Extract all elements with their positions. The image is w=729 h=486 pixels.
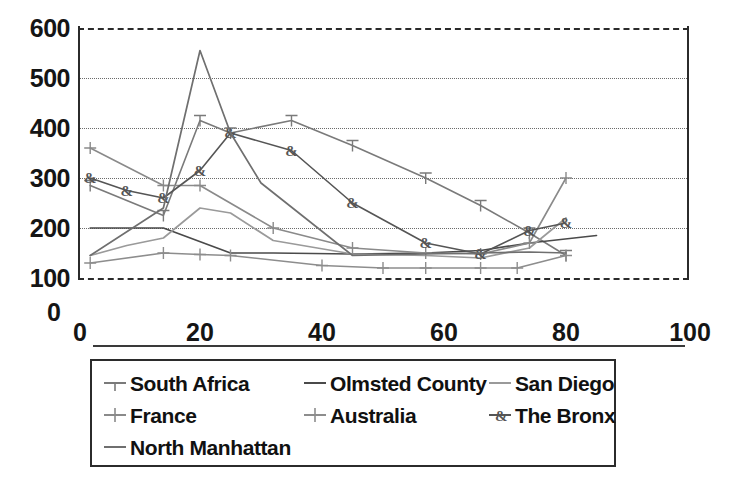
series-australia — [84, 247, 572, 274]
legend-item-label: North Manhattan — [130, 437, 291, 458]
legend-item-olmsted-county[interactable]: Olmsted County — [302, 373, 487, 394]
series-marker — [560, 250, 572, 262]
svg-text:&: & — [523, 223, 536, 239]
line-marker-icon — [102, 437, 128, 457]
legend-item-the-bronx[interactable]: &The Bronx — [487, 405, 627, 426]
series-marker — [420, 262, 432, 274]
tee-marker-icon — [102, 373, 128, 393]
chart-legend: South AfricaOlmsted CountySan DiegoFranc… — [90, 359, 616, 467]
series-marker: & — [194, 163, 207, 179]
legend-item-label: South Africa — [130, 373, 249, 394]
series-marker — [377, 262, 389, 274]
x-tick-label-100: 100 — [669, 320, 711, 345]
series-marker — [84, 142, 96, 154]
plus-marker-icon — [302, 405, 328, 425]
series-marker — [267, 222, 279, 234]
series-marker — [84, 257, 96, 269]
series-marker — [157, 247, 169, 259]
svg-text:&: & — [121, 183, 134, 199]
series-north-manhattan — [90, 51, 566, 256]
legend-item-label: Olmsted County — [330, 373, 487, 394]
x-tick-label-40: 40 — [308, 320, 336, 345]
series-marker — [347, 141, 359, 152]
plot-area: 600 500 400 300 200 100 &&&&&&&&&&& — [0, 0, 729, 300]
series-marker — [523, 237, 535, 249]
series-marker — [560, 172, 572, 184]
line-marker-icon — [302, 373, 328, 393]
svg-text:&: & — [560, 215, 573, 231]
legend-item-san-diego[interactable]: San Diego — [487, 373, 627, 394]
legend-item-label: France — [130, 405, 196, 426]
svg-text:&: & — [495, 408, 507, 424]
series-marker — [194, 116, 206, 127]
legend-item-north-manhattan[interactable]: North Manhattan — [102, 437, 302, 458]
x-tick-label-60: 60 — [430, 320, 458, 345]
x-tick-label-80: 80 — [552, 320, 580, 345]
legend-item-label: The Bronx — [515, 405, 615, 426]
series-marker: & — [474, 246, 487, 262]
legend-item-label: San Diego — [515, 373, 614, 394]
series-marker — [511, 262, 523, 274]
series-marker: & — [121, 183, 134, 199]
series-line — [90, 51, 566, 256]
x-axis-line — [93, 345, 685, 347]
legend-item-south-africa[interactable]: South Africa — [102, 373, 302, 394]
series-marker: & — [419, 235, 432, 251]
series-marker — [316, 260, 328, 272]
series-marker: & — [523, 223, 536, 239]
series-marker: & — [560, 215, 573, 231]
legend-item-australia[interactable]: Australia — [302, 405, 487, 426]
series-marker: & — [346, 195, 359, 211]
x-tick-label-20: 20 — [186, 320, 214, 345]
svg-text:&: & — [346, 195, 359, 211]
svg-text:&: & — [285, 143, 298, 159]
legend-item-france[interactable]: France — [102, 405, 302, 426]
line-marker-icon — [487, 373, 513, 393]
series-marker: & — [84, 170, 97, 186]
y-axis-origin-label: 0 — [47, 300, 61, 325]
series-layer: &&&&&&&&&&& — [0, 0, 729, 300]
svg-text:&: & — [474, 246, 487, 262]
series-marker — [475, 262, 487, 274]
x-tick-label-0: 0 — [73, 320, 87, 345]
plus-marker-icon — [102, 405, 128, 425]
ampersand-marker-icon: & — [487, 405, 513, 425]
series-marker — [475, 201, 487, 212]
series-marker — [157, 211, 169, 222]
series-marker — [194, 180, 206, 192]
svg-text:&: & — [419, 235, 432, 251]
legend-item-label: Australia — [330, 405, 416, 426]
svg-text:&: & — [194, 163, 207, 179]
series-marker — [194, 249, 206, 261]
series-marker — [420, 173, 432, 184]
series-marker: & — [285, 143, 298, 159]
svg-text:&: & — [84, 170, 97, 186]
chart-page: 600 500 400 300 200 100 &&&&&&&&&&& 0 0 … — [0, 0, 729, 486]
